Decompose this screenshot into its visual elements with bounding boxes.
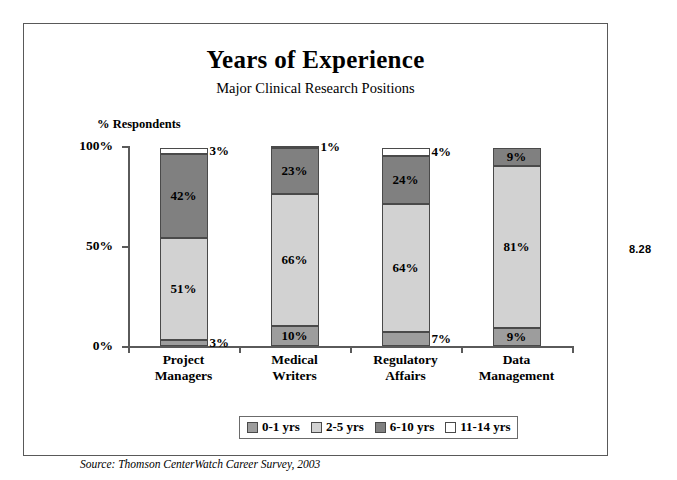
bar-segment[interactable]: 66% <box>271 194 319 326</box>
bar-column[interactable]: 7%64%24%4% <box>382 146 430 346</box>
bar-column[interactable]: 3%51%42%3% <box>160 146 208 346</box>
bar-segment[interactable]: 51% <box>160 238 208 340</box>
bar-segment-label: 10% <box>282 328 308 344</box>
bar-segment[interactable]: 9% <box>493 148 541 166</box>
bar-segment[interactable]: 3% <box>160 340 208 346</box>
x-axis-category-label: ProjectManagers <box>128 352 239 384</box>
bar-segment[interactable]: 23% <box>271 148 319 194</box>
bar-stack: 7%64%24%4% <box>382 146 430 346</box>
bar-segment-label: 24% <box>393 172 419 188</box>
category-label-line: Management <box>461 368 572 384</box>
bar-segment-label: 9% <box>507 149 527 165</box>
category-label-line: Writers <box>239 368 350 384</box>
y-axis-line <box>128 146 130 346</box>
bar-segment[interactable]: 7% <box>382 332 430 346</box>
bar-segment[interactable]: 42% <box>160 154 208 238</box>
chart-subtitle: Major Clinical Research Positions <box>24 80 607 97</box>
source-note: Source: Thomson CenterWatch Career Surve… <box>80 458 320 470</box>
chart-title: Years of Experience <box>24 46 607 74</box>
bar-segment-label: 1% <box>321 139 341 155</box>
x-axis-category-label: MedicalWriters <box>239 352 350 384</box>
bar-segment-label: 51% <box>171 281 197 297</box>
bar-segment[interactable]: 10% <box>271 326 319 346</box>
bar-segment-label: 23% <box>282 163 308 179</box>
bar-segment-label: 9% <box>507 329 527 345</box>
legend-swatch-icon <box>311 422 322 433</box>
y-axis-tick: 50% <box>122 246 128 248</box>
category-label-line: Data <box>461 352 572 368</box>
legend-swatch-icon <box>445 422 456 433</box>
x-axis-tick <box>572 346 574 353</box>
bar-segment-label: 64% <box>393 260 419 276</box>
category-label-line: Project <box>128 352 239 368</box>
legend-item[interactable]: 0-1 yrs <box>247 419 300 435</box>
bar-segment-label: 7% <box>432 331 452 347</box>
bar-stack: 3%51%42%3% <box>160 146 208 346</box>
bar-column[interactable]: 9%81%9% <box>493 146 541 346</box>
bar-column[interactable]: 10%66%23%1% <box>271 146 319 346</box>
bar-segment-label: 42% <box>171 188 197 204</box>
x-axis-category-label: DataManagement <box>461 352 572 384</box>
legend-swatch-icon <box>247 422 258 433</box>
bar-segment[interactable]: 64% <box>382 204 430 332</box>
legend-item[interactable]: 11-14 yrs <box>445 419 510 435</box>
category-label-line: Regulatory <box>350 352 461 368</box>
legend-item-label: 6-10 yrs <box>390 419 434 435</box>
y-axis-tick: 100% <box>122 146 128 148</box>
bar-segment-label: 4% <box>432 144 452 160</box>
legend-swatch-icon <box>375 422 386 433</box>
bar-segment-label: 3% <box>210 335 230 351</box>
bar-segment[interactable]: 81% <box>493 166 541 328</box>
bar-segment-label: 81% <box>504 239 530 255</box>
y-axis-title: % Respondents <box>97 117 181 132</box>
y-axis-tick-label: 100% <box>79 138 113 154</box>
legend-item[interactable]: 2-5 yrs <box>311 419 364 435</box>
bar-stack: 10%66%23%1% <box>271 146 319 346</box>
legend-item-label: 11-14 yrs <box>460 419 510 435</box>
bar-segment[interactable]: 24% <box>382 156 430 204</box>
bar-segment[interactable]: 3% <box>160 148 208 154</box>
bar-segment-label: 66% <box>282 252 308 268</box>
category-label-line: Affairs <box>350 368 461 384</box>
legend-item-label: 2-5 yrs <box>326 419 364 435</box>
chart-legend: 0-1 yrs2-5 yrs6-10 yrs11-14 yrs <box>239 416 518 439</box>
legend-item-label: 0-1 yrs <box>262 419 300 435</box>
bar-stack: 9%81%9% <box>493 146 541 346</box>
figure-number: 8.28 <box>629 243 651 255</box>
legend-item[interactable]: 6-10 yrs <box>375 419 434 435</box>
figure-frame: Years of Experience Major Clinical Resea… <box>23 23 608 456</box>
x-axis-category-label: RegulatoryAffairs <box>350 352 461 384</box>
category-label-line: Managers <box>128 368 239 384</box>
category-label-line: Medical <box>239 352 350 368</box>
plot-area: 0%50%100% 3%51%42%3%10%66%23%1%7%64%24%4… <box>128 146 572 346</box>
bar-segment[interactable]: 9% <box>493 328 541 346</box>
y-axis-tick-label: 0% <box>93 338 113 354</box>
bar-segment[interactable]: 4% <box>382 148 430 156</box>
y-axis-tick-label: 50% <box>86 238 113 254</box>
bar-segment-label: 3% <box>210 143 230 159</box>
bar-segment[interactable]: 1% <box>271 146 319 148</box>
